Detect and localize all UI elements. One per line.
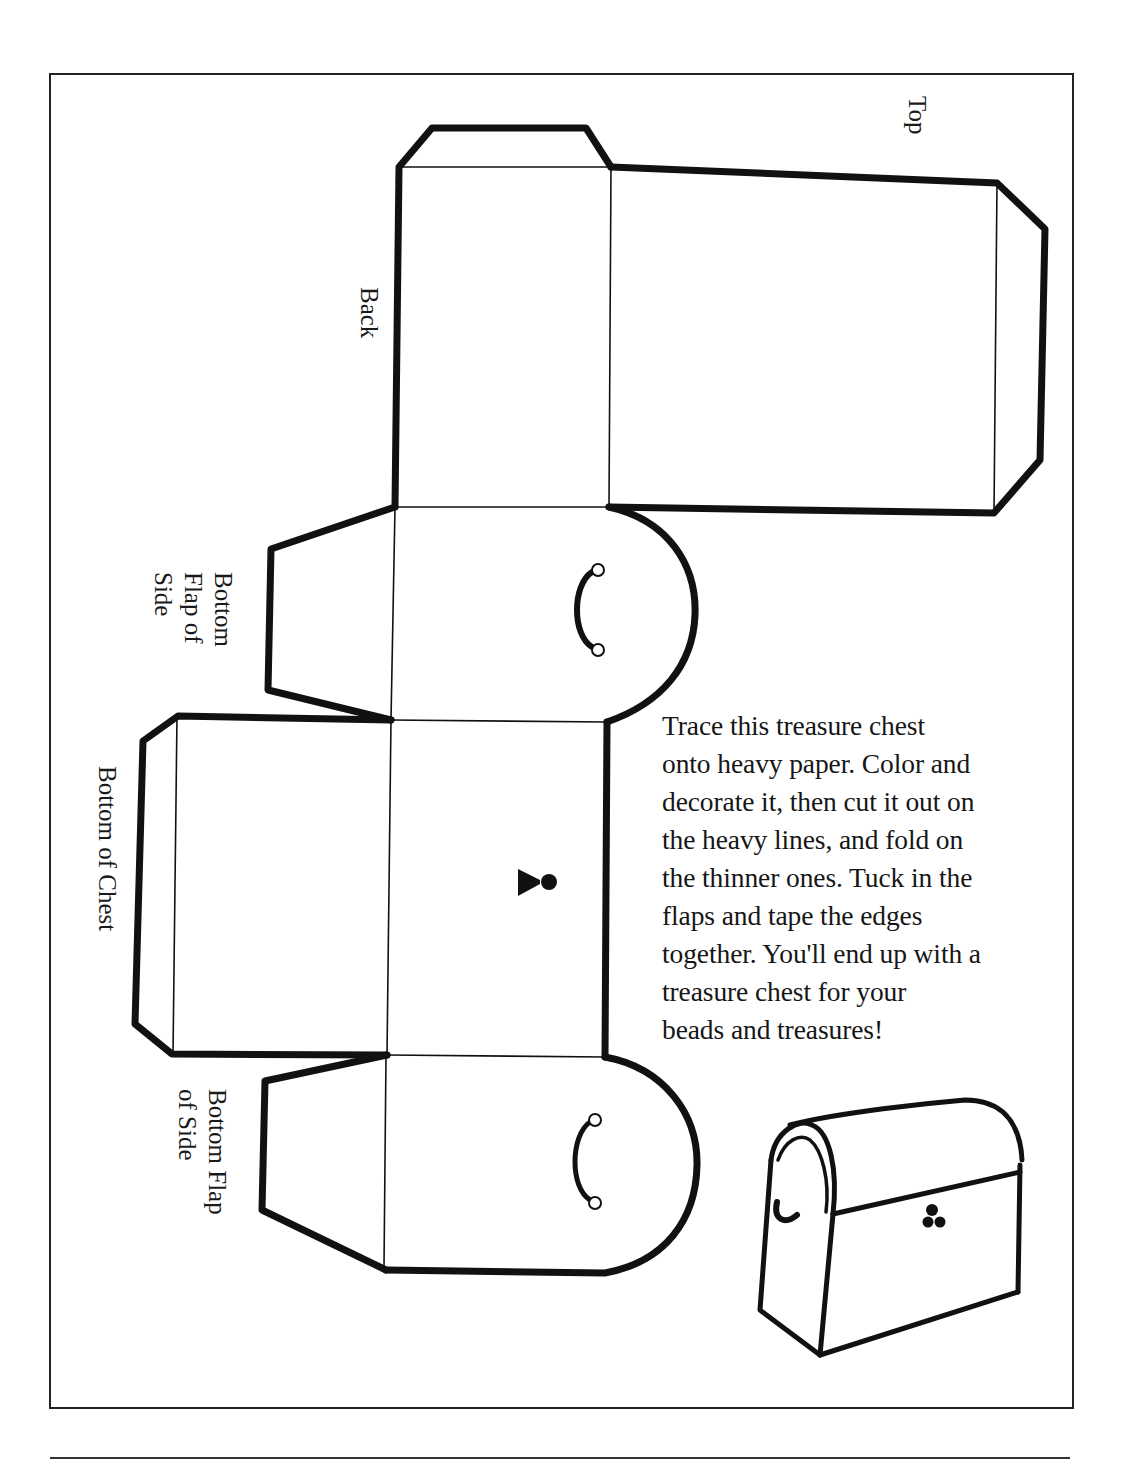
instructions-line: together. You'll end up with a (662, 935, 1072, 973)
label-bottom-flap-of-side-2: Bottom Flap of Side (172, 1089, 232, 1215)
instructions-text: Trace this treasure chest onto heavy pap… (662, 707, 1072, 1049)
label-bottom-of-chest: Bottom of Chest (92, 766, 122, 931)
instructions-line: treasure chest for your (662, 973, 1072, 1011)
cut-lines (135, 128, 1045, 1273)
label-top: Top (902, 96, 932, 135)
treasure-chest-illustration (760, 1100, 1022, 1355)
instructions-line: onto heavy paper. Color and (662, 745, 1072, 783)
chest-handle-icon (577, 564, 604, 656)
instructions-line: the heavy lines, and fold on (662, 821, 1072, 859)
label-bottom-flap-of-side-1: Bottom Flap of Side (148, 572, 238, 647)
label-back: Back (354, 287, 384, 338)
chest-handle-icon (575, 1114, 601, 1209)
instructions-line: beads and treasures! (662, 1011, 1072, 1049)
footer-rule (50, 1457, 1070, 1459)
instructions-line: Trace this treasure chest (662, 707, 1072, 745)
keyhole-icon (518, 869, 557, 896)
instructions-line: flaps and tape the edges (662, 897, 1072, 935)
instructions-line: the thinner ones. Tuck in the (662, 859, 1072, 897)
worksheet-page: Top Back Bottom Flap of Side Bottom of C… (0, 0, 1130, 1472)
instructions-line: decorate it, then cut it out on (662, 783, 1072, 821)
